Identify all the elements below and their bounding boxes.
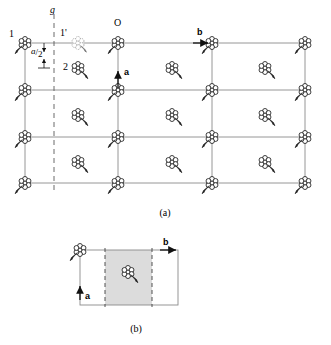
half-translation-numerator: a	[31, 46, 36, 56]
figure-canvas	[0, 0, 331, 345]
unit-cell-axis-label-b: b	[163, 238, 169, 247]
unit-cell-corner-motif	[70, 244, 86, 261]
motif-label-1: 1	[9, 29, 14, 39]
lattice-motif-group-interior	[72, 62, 275, 173]
glide-image-motif	[72, 37, 86, 53]
caption-panel-b: (b)	[106, 323, 166, 334]
panel-a-lattice	[15, 14, 311, 194]
caption-panel-a: (a)	[135, 207, 195, 218]
half-translation-label: a/2	[31, 47, 43, 57]
axis-label-b: b	[197, 28, 203, 37]
half-translation-denominator: 2	[38, 49, 43, 59]
axis-label-a: a	[124, 68, 129, 77]
unit-cell-axis-label-a: a	[85, 292, 90, 301]
crystallography-figure: g 1 1' 2 O b a a/2 b a (a) (b)	[0, 0, 331, 345]
motif-label-2: 2	[63, 62, 68, 72]
origin-label: O	[114, 18, 121, 28]
motif-label-1-prime: 1'	[60, 28, 67, 38]
glide-line-label: g	[50, 5, 55, 15]
